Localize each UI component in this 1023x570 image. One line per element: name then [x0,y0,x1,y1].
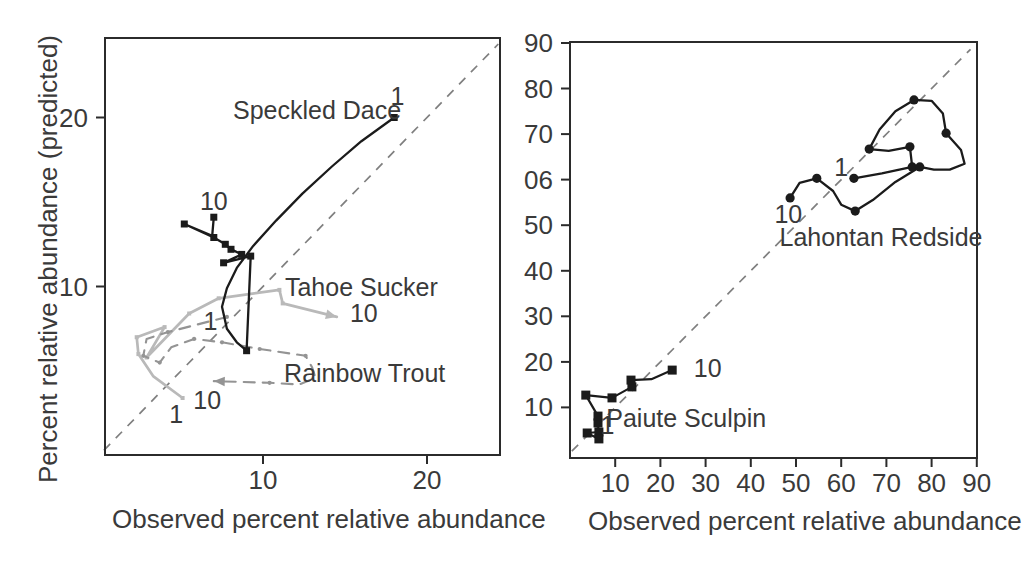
series-rainbow-trout-arrowhead [214,377,225,387]
right-y-tick-label: 50 [524,210,553,240]
series-lahontan-redside [786,95,965,215]
series-lahontan-redside-point [812,174,821,183]
series-rainbow-trout-point [304,354,308,358]
series-speckled-dace-point [247,253,254,260]
annotation-tahoe-sucker: Tahoe Sucker [285,273,438,301]
series-tahoe-sucker-point [136,352,140,356]
series-speckled-dace-point [222,241,229,248]
series-rainbow-trout-point [258,347,262,351]
series-speckled-dace-point [181,221,188,228]
series-paiute-sculpin-point [583,429,592,438]
annotation-10: 10 [694,354,722,382]
right-y-tick-label: 80 [524,74,553,104]
series-lahontan-redside-point [851,207,860,216]
right-x-axis-label: Observed percent relative abundance [588,506,988,537]
right-x-tick-label: 20 [646,468,675,498]
series-rainbow-trout-point [141,354,145,358]
annotation-speckled-dace: Speckled Dace [233,96,401,124]
chart-canvas: 10201020Speckled Dace110Tahoe Sucker101R… [0,0,1023,570]
right-x-tick-label: 70 [872,468,901,498]
left-y-tick-label: 10 [59,272,88,302]
series-paiute-sculpin-point [668,366,677,375]
series-rainbow-trout-point [158,361,162,365]
series-tahoe-sucker-point [163,325,167,329]
series-tahoe-sucker-point [135,335,139,339]
series-rainbow-trout-point [268,381,272,385]
series-tahoe-sucker-point [187,312,191,316]
annotation-10: 10 [350,299,378,327]
series-paiute-sculpin-point [608,393,617,402]
series-lahontan-redside-point [942,129,951,138]
series-tahoe-sucker-point [217,296,221,300]
annotation-lahontan-redside: Lahontan Redside [780,223,983,251]
series-lahontan-redside-line [790,100,965,211]
series-rainbow-trout-point [166,330,170,334]
right-y-tick-label: 40 [524,256,553,286]
right-panel-plot: 102030405060708090102030405006708090110L… [524,28,991,498]
right-x-tick-label: 40 [736,468,765,498]
series-tahoe-sucker-point [277,288,281,292]
right-y-tick-label: 10 [524,392,553,422]
series-lahontan-redside-point [905,142,914,151]
series-lahontan-redside-point [909,95,918,104]
right-x-tick-label: 60 [827,468,856,498]
series-speckled-dace-point [243,347,250,354]
series-lahontan-redside-point [849,174,858,183]
left-x-axis-label: Observed percent relative abundance [112,504,512,535]
series-rainbow-trout-point [192,337,196,341]
left-y-tick-label: 20 [59,103,88,133]
right-y-tick-label: 20 [524,347,553,377]
left-x-tick-label: 10 [249,465,278,495]
right-x-tick-label: 90 [962,468,991,498]
annotation-1: 1 [169,400,183,428]
annotation-1: 1 [391,82,405,110]
annotation-rainbow-trout: Rainbow Trout [284,359,445,387]
right-y-tick-label: 70 [524,119,553,149]
series-paiute-sculpin-point [581,391,590,400]
right-y-tick-label: 90 [524,28,553,58]
annotation-1: 1 [204,307,218,335]
right-y-tick-label: 06 [524,165,553,195]
left-x-tick-label: 20 [413,465,442,495]
right-y-tick-label: 30 [524,301,553,331]
annotation-1: 1 [834,153,848,181]
right-x-tick-label: 30 [691,468,720,498]
left-panel-plot: 10201020Speckled Dace110Tahoe Sucker101R… [59,38,500,495]
series-tahoe-sucker-point [281,301,285,305]
series-lahontan-redside-point [865,145,874,154]
series-rainbow-trout-point [220,340,224,344]
annotation-10: 10 [193,386,221,414]
series-lahontan-redside-point [915,162,924,171]
annotation-paiute-sculpin: Paiute Sculpin [606,404,766,432]
right-x-tick-label: 50 [782,468,811,498]
right-x-tick-label: 10 [601,468,630,498]
series-speckled-dace-point [220,259,227,266]
figure: 10201020Speckled Dace110Tahoe Sucker101R… [0,0,1023,570]
left-y-axis-label: Percent relative abundance (predicted) [33,24,63,494]
annotation-10: 10 [200,187,228,215]
series-paiute-sculpin-point [627,376,636,385]
series-speckled-dace-point [210,234,217,241]
series-speckled-dace-point [238,251,245,258]
right-x-tick-label: 80 [917,468,946,498]
annotation-1: 1 [601,411,615,439]
